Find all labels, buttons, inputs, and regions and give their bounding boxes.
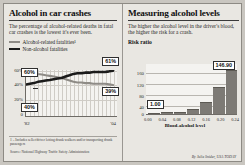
callout-40-percent: 40% [21, 103, 38, 112]
right-panel: Measuring alcohol levels The higher the … [122, 4, 244, 161]
infographic-container: Alcohol in car crashes The percentage of… [3, 3, 242, 162]
bar-chart-xtick-1: 0.04 [159, 117, 167, 122]
left-panel-header: Alcohol in car crashes The percentage of… [9, 8, 117, 54]
callout-39-percent: 39% [102, 87, 119, 96]
bar-0-12 [187, 109, 199, 114]
legend-item-alcohol-related: Alcohol-related fatalities¹ [9, 39, 117, 45]
bar-0-00 [148, 113, 160, 114]
title-rule [9, 20, 117, 21]
line-chart-xtick-start: '82 [24, 121, 30, 126]
line-chart-ytick-20: 20% [9, 97, 23, 102]
bar-chart: 160 120 80 40 0 0.00 0.04 0.0 [131, 64, 239, 126]
legend-label-nonalcohol: Non-alcohol fatalities [23, 46, 68, 52]
legend-swatch-icon-alcohol [9, 41, 20, 43]
line-chart: 60% 40% 20% 0 [9, 70, 117, 126]
line-chart-ytick-0: 0 [9, 112, 23, 117]
bar-chart-xticks: 0.00 0.04 0.08 0.12 0.16 0.20 0.24 [144, 117, 239, 122]
legend: Alcohol-related fatalities¹ Non-alcohol … [9, 39, 117, 53]
series-line-alcohol-related [26, 71, 113, 85]
line-chart-xtick-end: '04 [110, 121, 116, 126]
bar-0-24 [226, 70, 237, 114]
bar-chart-xtick-5: 0.20 [217, 117, 225, 122]
callout-61-percent: 61% [102, 57, 119, 66]
callout-baseline-risk: 1.00 [147, 100, 164, 109]
bar-0-16 [200, 102, 212, 115]
bar-chart-xtick-3: 0.12 [188, 117, 196, 122]
right-panel-title: Measuring alcohol levels [128, 8, 239, 18]
bar-chart-ytick-0: 0 [131, 112, 144, 117]
bar-chart-xtick-0: 0.00 [144, 117, 152, 122]
bar-chart-axis-title: Blood-alcohol level [131, 123, 239, 128]
bar-chart-xtick-6: 0.24 [231, 117, 239, 122]
footnote: 1 – Includes seller/driver letting drunk… [10, 138, 120, 146]
bar-chart-ytick-120: 120 [131, 83, 144, 88]
footer-rule [9, 136, 117, 137]
bar-0-08 [174, 112, 186, 114]
line-chart-ytick-40: 40% [9, 82, 23, 87]
right-panel-subtitle: The higher the alcohol level in the driv… [128, 23, 239, 35]
series-line-non-alcohol [26, 71, 113, 85]
bar-0-20 [213, 87, 225, 114]
leader-40 [33, 88, 38, 89]
bar-chart-ytick-80: 80 [131, 94, 144, 99]
left-panel: Alcohol in car crashes The percentage of… [4, 4, 122, 161]
bar-chart-xtick-4: 0.16 [202, 117, 210, 122]
bar-chart-ytick-160: 160 [131, 71, 144, 76]
bar-chart-ytick-40: 40 [131, 105, 144, 110]
left-panel-title: Alcohol in car crashes [9, 8, 117, 18]
bar-0-04 [161, 112, 173, 114]
right-panel-header: Measuring alcohol levels The higher the … [128, 8, 239, 45]
risk-ratio-label: Risk ratio [128, 39, 239, 45]
title-rule-right [128, 20, 239, 21]
callout-60-percent: 60% [21, 68, 38, 77]
credit-line: By Julie Snider, USA TODAY [192, 155, 236, 159]
callout-peak-risk: 146.90 [213, 61, 236, 70]
legend-swatch-icon-nonalcohol [9, 48, 20, 51]
left-panel-subtitle: The percentage of alcohol-related deaths… [9, 23, 117, 35]
bar-chart-xtick-2: 0.08 [173, 117, 181, 122]
legend-item-non-alcohol: Non-alcohol fatalities [9, 46, 117, 52]
legend-label-alcohol: Alcohol-related fatalities¹ [23, 39, 76, 45]
